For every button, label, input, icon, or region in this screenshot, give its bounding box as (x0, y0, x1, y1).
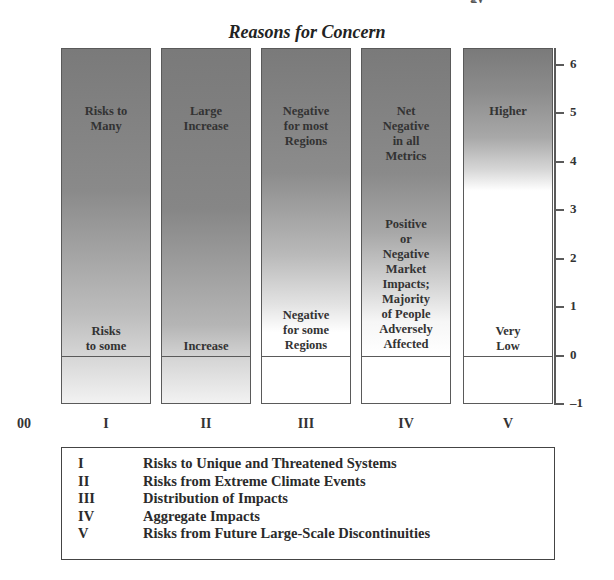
y-axis-line (554, 48, 556, 405)
legend-key: IV (78, 507, 94, 525)
bar-III-top-label: Negative for most Regions (262, 104, 350, 149)
category-label-I: I (61, 416, 151, 432)
legend-label: Risks to Unique and Threatened Systems (143, 454, 397, 472)
category-label-IV: IV (361, 416, 451, 432)
bar-V-zero-line (464, 356, 552, 357)
y-tick-label-6: 6 (570, 57, 577, 71)
origin-label: 00 (17, 416, 31, 432)
y-tick-3 (554, 209, 564, 211)
legend-key: I (78, 454, 84, 472)
y-tick-1 (554, 306, 564, 308)
bar-IV-bottom-label: Positive or Negative Market Impacts; Maj… (362, 217, 450, 352)
bar-III-zero-line (262, 356, 350, 357)
y-tick-0 (554, 355, 564, 357)
category-label-III: III (261, 416, 351, 432)
legend-label: Aggregate Impacts (143, 507, 260, 525)
bar-III-bottom-label: Negative for some Regions (262, 308, 350, 353)
bar-II-bottom-label: Increase (162, 339, 250, 354)
y-tick-neg1 (554, 403, 564, 405)
y-tick-label-4: 4 (570, 154, 577, 168)
y-tick-5 (554, 112, 564, 114)
bar-II-zero-line (162, 356, 250, 357)
bar-I-zero-line (62, 356, 150, 357)
bar-II: Large Increase Increase (161, 48, 251, 404)
bar-I-bottom-label: Risks to some (62, 324, 150, 354)
bar-V-top-label: Higher (464, 104, 552, 119)
clipped-header-text: gy (470, 0, 570, 3)
bar-IV: Net Negative in all Metrics Positive or … (361, 48, 451, 404)
y-tick-6 (554, 64, 564, 66)
bar-IV-top-label: Net Negative in all Metrics (362, 104, 450, 164)
y-tick-label-0: 0 (570, 348, 577, 362)
y-tick-label-1: 1 (570, 299, 577, 313)
category-label-II: II (161, 416, 251, 432)
legend-key: II (78, 472, 89, 490)
legend-label: Distribution of Impacts (143, 489, 288, 507)
y-tick-label-5: 5 (570, 105, 577, 119)
chart-title: Reasons for Concern (0, 22, 614, 43)
bar-V: Higher Very Low (463, 48, 553, 404)
bar-I-top-label: Risks to Many (62, 104, 150, 134)
y-tick-label-neg1: –1 (570, 396, 583, 410)
legend-box: I Risks to Unique and Threatened Systems… (61, 447, 555, 560)
legend-key: III (78, 489, 95, 507)
y-tick-4 (554, 161, 564, 163)
bar-I: Risks to Many Risks to some (61, 48, 151, 404)
bar-IV-zero-line (362, 356, 450, 357)
legend-key: V (78, 524, 88, 542)
y-tick-label-3: 3 (570, 202, 577, 216)
bar-V-bottom-label: Very Low (464, 324, 552, 354)
category-label-V: V (463, 416, 553, 432)
bar-II-top-label: Large Increase (162, 104, 250, 134)
bar-III: Negative for most Regions Negative for s… (261, 48, 351, 404)
y-tick-label-2: 2 (570, 251, 577, 265)
legend-label: Risks from Extreme Climate Events (143, 472, 366, 490)
legend-label: Risks from Future Large-Scale Discontinu… (143, 524, 430, 542)
y-tick-2 (554, 258, 564, 260)
